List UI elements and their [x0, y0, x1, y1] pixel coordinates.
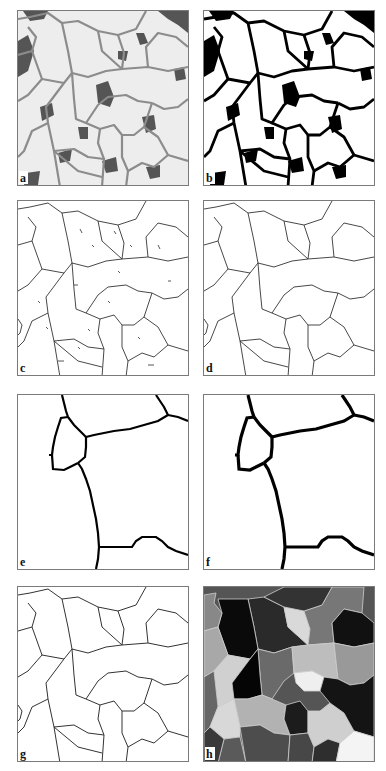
panel-c-skeleton-raw: c: [17, 200, 189, 376]
detail-thick-image: [204, 395, 374, 569]
panel-label: g: [19, 747, 28, 760]
panel-f-detail-thick: f: [203, 394, 375, 570]
panel-d-skeleton-clean: d: [203, 200, 375, 376]
panel-label: b: [205, 171, 215, 184]
binary-image: [204, 11, 374, 185]
panel-b-binary: b: [203, 10, 375, 186]
panel-label: a: [19, 171, 28, 184]
panel-label: h: [205, 747, 215, 760]
boundaries-final-image: [18, 587, 188, 761]
skeleton-image: [18, 201, 188, 375]
detail-thin-image: [18, 395, 188, 569]
panel-label: d: [205, 361, 215, 374]
panel-g-boundaries-final: g: [17, 586, 189, 762]
panel-e-detail-thin: e: [17, 394, 189, 570]
panel-label: e: [19, 555, 27, 568]
micrograph-image: [18, 11, 188, 185]
skeleton-clean-image: [204, 201, 374, 375]
labeled-grains-image: [204, 587, 374, 761]
panel-label: c: [19, 361, 27, 374]
panel-h-labeled-grains: h: [203, 586, 375, 762]
panel-a-micrograph: a: [17, 10, 189, 186]
panel-label: f: [205, 555, 212, 568]
